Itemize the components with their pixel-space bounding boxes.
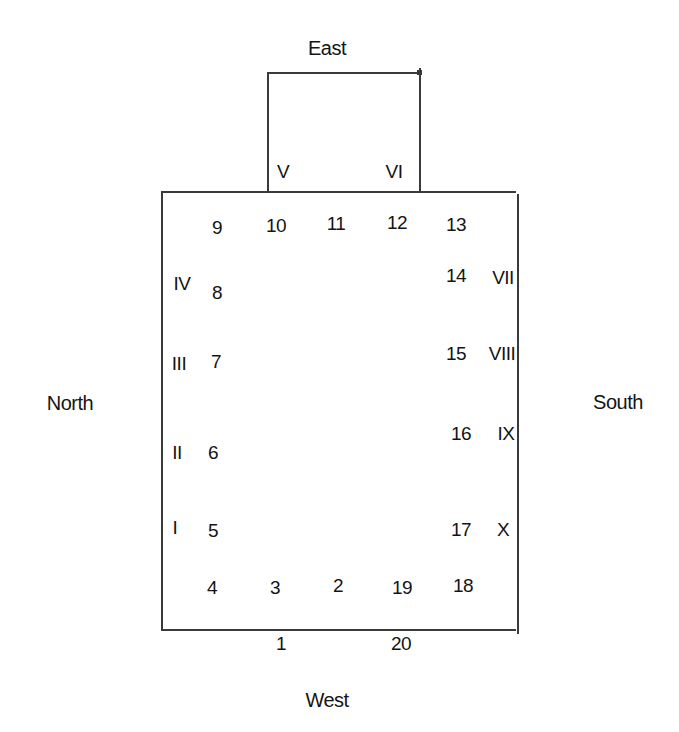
position-18: 18 <box>453 576 473 595</box>
hall-top-wall <box>162 191 516 193</box>
position-12: 12 <box>387 213 407 232</box>
position-16: 16 <box>451 424 471 443</box>
position-7: 7 <box>211 352 221 371</box>
annex-right-wall <box>419 68 421 192</box>
floor-plan-diagram: East West North South V VI IV III II I 9… <box>0 0 679 732</box>
position-19: 19 <box>392 578 412 597</box>
position-III: III <box>172 354 186 373</box>
position-20: 20 <box>391 634 411 653</box>
position-13: 13 <box>446 215 466 234</box>
position-IV: IV <box>174 274 191 293</box>
position-15: 15 <box>446 344 466 363</box>
direction-east-label: East <box>308 38 346 58</box>
hall-left-wall <box>161 191 163 631</box>
position-VI: VI <box>386 162 403 181</box>
position-14: 14 <box>446 266 466 285</box>
annex-left-wall <box>267 72 269 192</box>
annex-corner-marker <box>417 70 422 75</box>
position-V: V <box>277 162 289 181</box>
hall-right-wall <box>517 194 519 634</box>
position-4: 4 <box>207 578 217 597</box>
direction-west-label: West <box>305 690 348 710</box>
position-X: X <box>497 520 509 539</box>
annex-top-wall <box>267 72 421 74</box>
hall-bottom-wall <box>162 629 516 631</box>
position-3: 3 <box>270 578 280 597</box>
position-2: 2 <box>333 576 343 595</box>
position-VIII: VIII <box>489 344 516 363</box>
position-VII: VII <box>492 268 514 287</box>
direction-south-label: South <box>593 392 643 412</box>
position-5: 5 <box>208 521 218 540</box>
position-IX: IX <box>498 424 515 443</box>
position-II: II <box>172 443 182 462</box>
position-17: 17 <box>451 520 471 539</box>
position-1: 1 <box>276 634 286 653</box>
position-I: I <box>173 518 178 537</box>
position-10: 10 <box>266 216 286 235</box>
position-8: 8 <box>212 283 222 302</box>
position-6: 6 <box>208 443 218 462</box>
direction-north-label: North <box>47 393 93 413</box>
position-9: 9 <box>212 218 222 237</box>
position-11: 11 <box>327 214 346 233</box>
